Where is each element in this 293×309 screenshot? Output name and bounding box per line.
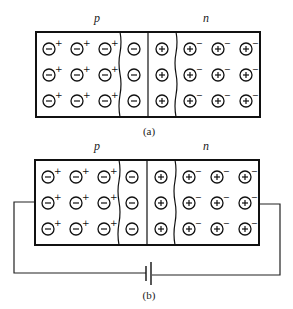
ions-group: +++−−−+++−−−+++−−−: [43, 38, 259, 107]
acceptor-ion-icon: +: [71, 90, 91, 107]
donor-ion-icon: [156, 95, 168, 107]
depletion-boundary-n: [175, 32, 177, 117]
donor-ion-icon: [156, 69, 168, 81]
n-region-label: n: [203, 139, 209, 153]
donor-ion-icon: [155, 223, 167, 235]
panel-b: p n +++−−−+++−−−+++−−− (b): [14, 139, 280, 302]
hole-carrier-icon: +: [82, 166, 90, 176]
acceptor-ion-icon: +: [98, 218, 118, 235]
electron-carrier-icon: −: [196, 39, 203, 48]
hole-carrier-icon: +: [111, 64, 119, 74]
ions-group: +++−−−+++−−−+++−−−: [42, 166, 258, 235]
donor-ion-icon: −: [183, 219, 202, 235]
donor-ion-icon: −: [240, 91, 259, 107]
electron-carrier-icon: −: [195, 167, 202, 176]
p-region-label: p: [93, 11, 100, 25]
donor-ion-icon: −: [183, 167, 202, 183]
donor-ion-icon: −: [211, 193, 230, 209]
electron-carrier-icon: −: [196, 65, 203, 74]
donor-ion-icon: −: [212, 65, 231, 81]
right-wire: [152, 204, 280, 275]
n-region-label: n: [203, 11, 209, 25]
caption-b: (b): [143, 289, 156, 302]
acceptor-ion-icon: [126, 223, 138, 235]
hole-carrier-icon: +: [55, 90, 63, 100]
acceptor-ion-icon: +: [70, 166, 90, 183]
hole-carrier-icon: +: [111, 38, 119, 48]
hole-carrier-icon: +: [55, 38, 63, 48]
acceptor-ion-icon: +: [70, 218, 90, 235]
donor-ion-icon: −: [184, 39, 203, 55]
donor-ion-icon: [156, 43, 168, 55]
depletion-boundary-p: [119, 32, 121, 117]
hole-carrier-icon: +: [54, 192, 62, 202]
acceptor-ion-icon: [126, 197, 138, 209]
donor-ion-icon: −: [211, 219, 230, 235]
electron-carrier-icon: −: [252, 91, 259, 100]
caption-a: (a): [143, 125, 156, 138]
hole-carrier-icon: +: [55, 64, 63, 74]
acceptor-ion-icon: +: [98, 192, 118, 209]
left-wire: [14, 202, 146, 273]
electron-carrier-icon: −: [251, 219, 258, 228]
acceptor-ion-icon: [128, 43, 140, 55]
acceptor-ion-icon: +: [42, 192, 62, 209]
donor-ion-icon: −: [239, 193, 258, 209]
donor-ion-icon: −: [183, 193, 202, 209]
donor-ion-icon: −: [212, 91, 231, 107]
hole-carrier-icon: +: [54, 218, 62, 228]
electron-carrier-icon: −: [251, 193, 258, 202]
hole-carrier-icon: +: [83, 90, 91, 100]
electron-carrier-icon: −: [224, 39, 231, 48]
acceptor-ion-icon: +: [99, 90, 119, 107]
electron-carrier-icon: −: [224, 91, 231, 100]
donor-ion-icon: −: [240, 39, 259, 55]
hole-carrier-icon: +: [83, 38, 91, 48]
acceptor-ion-icon: [128, 69, 140, 81]
acceptor-ion-icon: [128, 95, 140, 107]
acceptor-ion-icon: [126, 171, 138, 183]
hole-carrier-icon: +: [83, 64, 91, 74]
hole-carrier-icon: +: [110, 166, 118, 176]
donor-ion-icon: −: [240, 65, 259, 81]
electron-carrier-icon: −: [223, 167, 230, 176]
donor-ion-icon: −: [211, 167, 230, 183]
p-region-label: p: [93, 139, 100, 153]
hole-carrier-icon: +: [82, 192, 90, 202]
electron-carrier-icon: −: [252, 39, 259, 48]
electron-carrier-icon: −: [223, 219, 230, 228]
depletion-boundary-p: [118, 160, 120, 245]
hole-carrier-icon: +: [110, 218, 118, 228]
acceptor-ion-icon: +: [99, 64, 119, 81]
acceptor-ion-icon: +: [43, 64, 63, 81]
acceptor-ion-icon: +: [43, 90, 63, 107]
donor-ion-icon: −: [184, 65, 203, 81]
donor-ion-icon: [155, 197, 167, 209]
electron-carrier-icon: −: [251, 167, 258, 176]
donor-ion-icon: −: [239, 219, 258, 235]
hole-carrier-icon: +: [54, 166, 62, 176]
acceptor-ion-icon: +: [71, 38, 91, 55]
hole-carrier-icon: +: [110, 192, 118, 202]
electron-carrier-icon: −: [224, 65, 231, 74]
hole-carrier-icon: +: [82, 218, 90, 228]
acceptor-ion-icon: +: [71, 64, 91, 81]
donor-ion-icon: −: [184, 91, 203, 107]
acceptor-ion-icon: +: [43, 38, 63, 55]
acceptor-ion-icon: +: [42, 166, 62, 183]
electron-carrier-icon: −: [252, 65, 259, 74]
depletion-boundary-n: [174, 160, 176, 245]
electron-carrier-icon: −: [196, 91, 203, 100]
electron-carrier-icon: −: [195, 193, 202, 202]
electron-carrier-icon: −: [223, 193, 230, 202]
donor-ion-icon: −: [239, 167, 258, 183]
battery-icon: [146, 262, 151, 285]
hole-carrier-icon: +: [111, 90, 119, 100]
donor-ion-icon: [155, 171, 167, 183]
acceptor-ion-icon: +: [70, 192, 90, 209]
electron-carrier-icon: −: [195, 219, 202, 228]
acceptor-ion-icon: +: [98, 166, 118, 183]
pn-junction-diagram: p n +++−−−+++−−−+++−−− (a) p n +++−−−+++…: [0, 0, 293, 309]
donor-ion-icon: −: [212, 39, 231, 55]
acceptor-ion-icon: +: [42, 218, 62, 235]
